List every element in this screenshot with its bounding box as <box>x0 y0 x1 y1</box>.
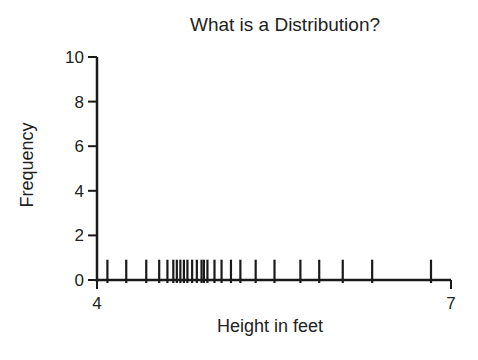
y-tick-label: 8 <box>75 93 84 112</box>
y-tick-label: 6 <box>75 137 84 156</box>
y-tick-label: 10 <box>65 48 84 67</box>
x-tick-label: 7 <box>446 294 455 313</box>
axes: 024681047 <box>65 48 456 313</box>
y-tick-label: 0 <box>75 271 84 290</box>
y-tick-label: 4 <box>75 182 84 201</box>
y-tick-label: 2 <box>75 226 84 245</box>
plot-area: 024681047 <box>0 0 478 360</box>
x-tick-label: 4 <box>92 294 101 313</box>
